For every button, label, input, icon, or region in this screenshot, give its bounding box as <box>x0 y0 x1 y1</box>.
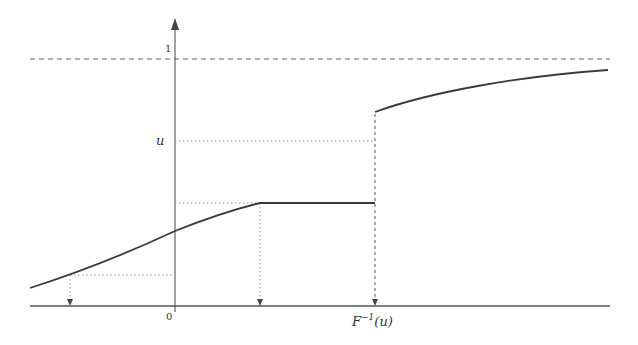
label-finv: F−1(u) <box>351 312 393 329</box>
label-finv-sup: −1 <box>361 312 374 322</box>
label-one: 1 <box>165 43 171 54</box>
cdf-curve-lower <box>30 203 375 288</box>
label-zero: 0 <box>166 311 172 322</box>
arrow-down-icon <box>67 299 73 306</box>
inverse-cdf-diagram: 1 u 0 F−1(u) <box>0 0 638 345</box>
label-finv-arg: (u) <box>374 314 393 329</box>
arrow-down-icon <box>257 299 263 306</box>
cdf-curve-upper <box>375 70 608 112</box>
arrow-down-icon <box>372 299 378 306</box>
y-axis-arrow-icon <box>171 18 179 30</box>
label-u: u <box>156 133 164 148</box>
